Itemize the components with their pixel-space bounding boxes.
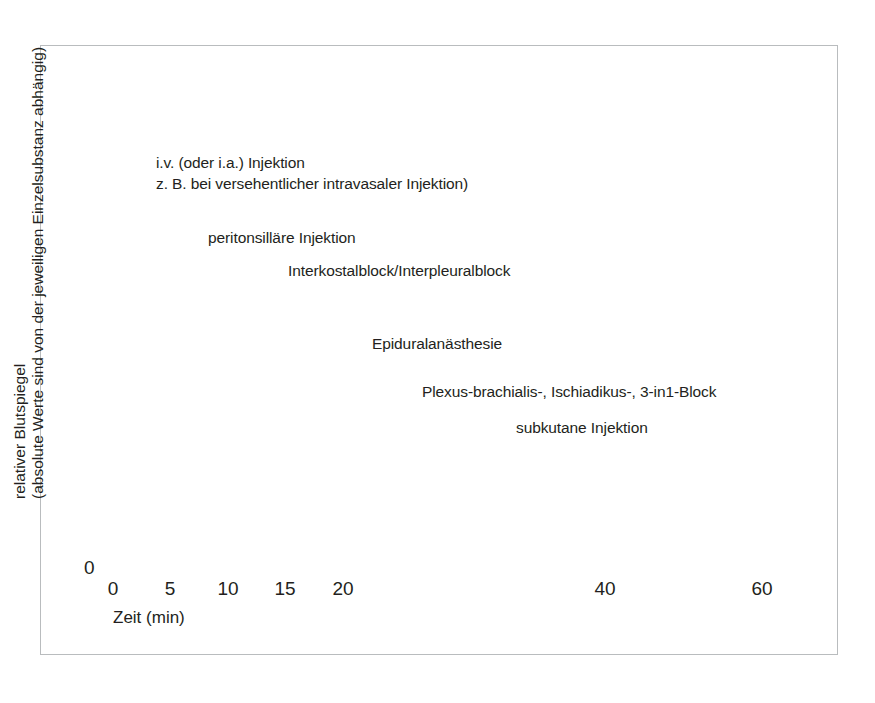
- x-axis-title: Zeit (min): [113, 608, 185, 628]
- x-tick-label-20: 20: [323, 578, 363, 600]
- annotation-epidural: Epiduralanästhesie: [372, 334, 502, 354]
- x-tick-label-40: 40: [585, 578, 625, 600]
- x-tick-label-5: 5: [150, 578, 190, 600]
- x-tick-label-60: 60: [742, 578, 782, 600]
- annotation-plexus: Plexus-brachialis-, Ischiadikus-, 3-in1-…: [422, 382, 716, 402]
- x-tick-label-10: 10: [208, 578, 248, 600]
- annotation-iv-line1: i.v. (oder i.a.) Injektion: [156, 153, 305, 173]
- x-tick-label-0: 0: [93, 578, 133, 600]
- y-axis-title: relativer Blutspiegel (absolute Werte si…: [11, 29, 47, 499]
- y-axis-title-line2: (absolute Werte sind von der jeweiligen …: [29, 29, 47, 499]
- y-axis-title-line1: relativer Blutspiegel: [11, 29, 29, 499]
- annotation-peritonsillar: peritonsilläre Injektion: [208, 228, 356, 248]
- annotation-iv-line2: z. B. bei versehentlicher intravasaler I…: [156, 174, 468, 194]
- y-axis-zero-label: 0: [84, 557, 95, 579]
- annotation-interkostal: Interkostalblock/Interpleuralblock: [288, 261, 510, 281]
- x-tick-label-15: 15: [265, 578, 305, 600]
- annotation-subkutan: subkutane Injektion: [516, 418, 648, 438]
